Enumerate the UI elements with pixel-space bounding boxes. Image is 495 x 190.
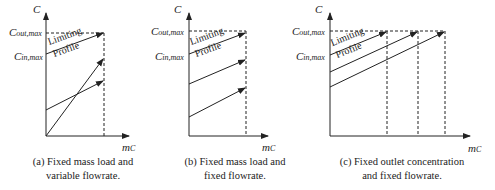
c-out-max-label: Cout,max [9, 26, 42, 38]
x-axis-label: mC [262, 141, 275, 153]
caption-a: (a) Fixed mass load andvariable flowrate… [8, 155, 158, 183]
stream-line-2 [189, 88, 245, 117]
stream-line-1 [189, 60, 245, 84]
c-in-max-label: Cin,max [296, 50, 325, 62]
y-axis-label: C [174, 3, 181, 15]
stream-line-1 [46, 81, 103, 110]
caption-b: (b) Fixed mass load andfixed flowrate. [160, 155, 310, 183]
x-axis-label: mC [468, 142, 481, 154]
c-in-max-label: Cin,max [14, 50, 43, 62]
x-axis-label: mC [122, 141, 135, 153]
y-axis-label: C [315, 3, 322, 15]
caption-c: (c) Fixed outlet concentrationand fixed … [322, 155, 482, 183]
y-axis-label: C [33, 3, 40, 15]
c-in-max-label: Cin,max [155, 50, 184, 62]
c-out-max-label: Cout,max [151, 25, 184, 37]
c-out-max-label: Cout,max [292, 25, 325, 37]
stream-line-2 [46, 59, 103, 136]
